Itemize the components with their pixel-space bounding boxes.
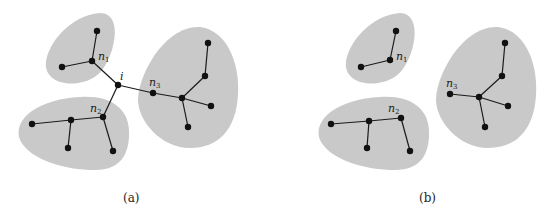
caption-b: (b) (419, 191, 436, 205)
cluster-n1-region (346, 13, 415, 84)
panel-a: n1 i n3 n2 (a) (19, 13, 239, 205)
node-n1 (89, 58, 95, 64)
diagram-canvas: n1 i n3 n2 (a) (0, 0, 549, 216)
cluster-n2-region (19, 97, 129, 170)
label-i: i (120, 70, 124, 83)
panel-b: n1 n3 n2 (b) (319, 13, 537, 205)
node-n3 (150, 90, 156, 96)
caption-a: (a) (123, 191, 140, 205)
node-n1 (387, 57, 393, 63)
cluster-n2-region (319, 97, 429, 170)
node-n3 (447, 91, 453, 97)
